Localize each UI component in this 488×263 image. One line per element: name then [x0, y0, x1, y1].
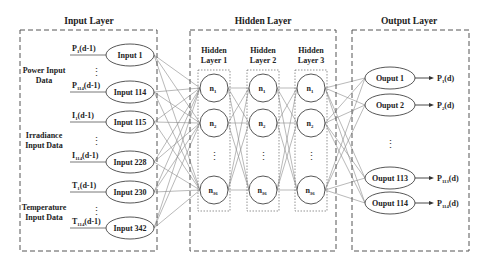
input-node: T1(d-1)Input 230 [70, 181, 154, 203]
output-node-label: Ouput 114 [372, 199, 408, 208]
input-signal-label: I1(d-1) [72, 111, 94, 121]
output-node-label: Ouput 1 [376, 74, 404, 83]
power-input-label-2: Data [36, 76, 52, 85]
output-signal-label: P113(d) [437, 174, 459, 184]
input-signal-label: T114(d-1) [72, 217, 101, 227]
output-node-label: Ouput 2 [376, 101, 404, 110]
input-node-label: Input 228 [113, 158, 146, 167]
output-node: Ouput 1P1(d) [365, 67, 454, 89]
hidden-layer-1: HiddenLayer 1n1n2n36⋮ [198, 46, 230, 211]
input-node: I114(d-1)Input 228 [70, 151, 154, 173]
temperature-input-label: Temperature [22, 203, 67, 212]
neuron [200, 176, 228, 204]
irradiance-input-label: Irradiance [26, 131, 63, 140]
ellipsis-icon: ⋮ [385, 138, 396, 150]
ellipsis-icon: ⋮ [91, 66, 102, 78]
output-signal-label: P114(d) [437, 199, 459, 209]
ellipsis-icon: ⋮ [91, 205, 102, 217]
input-node-label: Input 230 [113, 188, 146, 197]
output-layer-box [352, 30, 469, 251]
ellipsis-icon: ⋮ [258, 150, 269, 162]
output-signal-label: P2(d) [437, 101, 454, 111]
hidden-layer-3: HiddenLayer 3n1n2n36⋮ [295, 46, 327, 211]
neuron [249, 176, 277, 204]
input-node-label: Input 342 [113, 224, 146, 233]
arrow-head-icon [429, 176, 434, 180]
input-node-label: Input 115 [114, 118, 147, 127]
input-node-label: Input 1 [117, 51, 142, 60]
input-signal-label: T1(d-1) [72, 181, 97, 191]
output-node: Ouput 113P113(d) [365, 167, 459, 189]
hidden-layer-label: Hidden [201, 46, 227, 55]
input-node: T114(d-1)Input 342 [70, 217, 154, 239]
power-input-label: Power Input [23, 66, 66, 75]
arrow-head-icon [429, 76, 434, 80]
input-signal-label: P114(d-1) [72, 81, 101, 91]
ellipsis-icon: ⋮ [209, 150, 220, 162]
output-nodes: Ouput 1P1(d)Ouput 2P2(d)Ouput 113P113(d)… [365, 67, 459, 214]
arrow-head-icon [429, 103, 434, 107]
ellipsis-icon: ⋮ [91, 135, 102, 147]
ellipsis-icon: ⋮ [306, 150, 317, 162]
input-node: P1(d-1)Input 1 [70, 44, 154, 66]
input-signal-label: P1(d-1) [72, 44, 96, 54]
arrow-head-icon [429, 201, 434, 205]
output-node-label: Ouput 113 [372, 174, 408, 183]
input-node: I1(d-1)Input 115 [70, 111, 154, 133]
hidden-layer-2: HiddenLayer 2n1n2n36⋮ [247, 46, 279, 211]
hidden-layer-label: Layer 3 [298, 56, 324, 65]
output-layer-title: Output Layer [381, 16, 438, 26]
neuron [297, 176, 325, 204]
input-nodes: P1(d-1)Input 1P114(d-1)Input 114I1(d-1)I… [70, 44, 154, 239]
neural-network-diagram: Input Layer Hidden Layer Output Layer Po… [0, 0, 488, 263]
input-layer-title: Input Layer [64, 16, 114, 26]
temperature-input-label-2: Input Data [25, 213, 63, 222]
hidden-layer-label: Hidden [250, 46, 276, 55]
input-node: P114(d-1)Input 114 [70, 81, 154, 103]
hidden-layer-label: Layer 2 [250, 56, 276, 65]
output-node: Ouput 114P114(d) [365, 192, 459, 214]
hidden-layer-label: Hidden [298, 46, 324, 55]
hidden-layer-title: Hidden Layer [235, 16, 293, 26]
input-signal-label: I114(d-1) [72, 151, 99, 161]
hidden-layers: HiddenLayer 1n1n2n36⋮HiddenLayer 2n1n2n3… [198, 46, 327, 211]
output-node: Ouput 2P2(d) [365, 94, 454, 116]
input-node-label: Input 114 [114, 88, 147, 97]
output-signal-label: P1(d) [437, 74, 454, 84]
hidden-layer-label: Layer 1 [201, 56, 227, 65]
irradiance-input-label-2: Input Data [25, 141, 63, 150]
